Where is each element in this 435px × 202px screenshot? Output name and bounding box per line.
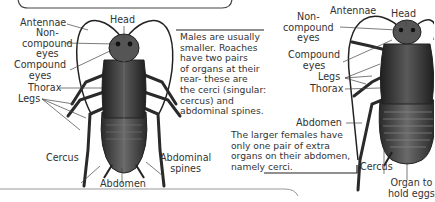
male-label-non-compound-eyes: Non- compound eyes — [22, 28, 73, 60]
male-label-abdominal-spines: Abdominal spines — [160, 153, 211, 174]
male-label-head: Head — [110, 15, 135, 26]
female-label-antennae: Antennae — [330, 6, 376, 17]
female-label-abdomen: Abdomen — [296, 118, 342, 129]
male-head — [109, 34, 139, 62]
female-abdomen — [379, 100, 434, 164]
bottom-frame — [0, 189, 298, 196]
female-label-head: Head — [391, 9, 416, 20]
female-label-legs: Legs — [318, 72, 340, 83]
male-label-legs: Legs — [18, 94, 40, 105]
male-label-cercus: Cercus — [46, 153, 79, 164]
female-label-non-compound-eyes: Non- compound eyes — [283, 12, 334, 44]
female-label-compound-eyes: Compound eyes — [288, 50, 340, 71]
female-thorax — [380, 44, 433, 104]
female-label-cercus: Cercus — [360, 162, 393, 173]
male-description: Males are usually smaller. Roaches have … — [180, 32, 266, 117]
male-label-thorax: Thorax — [28, 83, 61, 94]
female-label-organ-to-hold-eggs: Organ to hold eggs — [388, 178, 435, 199]
female-head — [393, 20, 421, 44]
male-label-compound-eyes: Compound eyes — [14, 60, 66, 81]
female-label-thorax: Thorax — [310, 84, 343, 95]
top-frame — [18, 0, 232, 8]
male-label-abdomen: Abdomen — [100, 179, 146, 190]
female-description: The larger females have only one pair of… — [231, 130, 350, 172]
